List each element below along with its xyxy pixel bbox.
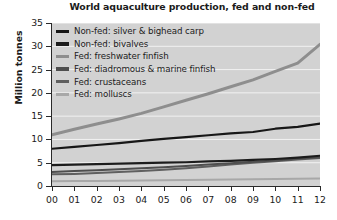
- x-tick-mark: [253, 187, 254, 191]
- legend-swatch-icon: [56, 55, 69, 58]
- legend-item-label: Non-fed: silver & bighead carp: [74, 26, 204, 36]
- y-tick-label: 5: [37, 157, 43, 168]
- y-tick-label: 15: [31, 110, 43, 121]
- x-tick-label: 00: [41, 194, 63, 205]
- x-tick-label: 03: [108, 194, 130, 205]
- series-line: [52, 179, 320, 182]
- legend-item-label: Fed: freshwater finfish: [74, 51, 169, 61]
- x-tick-label: 07: [197, 194, 219, 205]
- x-tick-label: 05: [153, 194, 175, 205]
- legend-item-label: Non-fed: bivalves: [74, 39, 148, 49]
- legend-item[interactable]: Fed: molluscs: [56, 88, 246, 101]
- y-tick-label: 35: [31, 17, 43, 28]
- x-tick-label: 08: [220, 194, 242, 205]
- x-tick-mark: [320, 187, 321, 191]
- legend-swatch-icon: [56, 42, 69, 45]
- legend-item[interactable]: Fed: freshwater finfish: [56, 50, 246, 63]
- x-tick-mark: [164, 187, 165, 191]
- x-tick-mark: [298, 187, 299, 191]
- y-tick-label: 30: [31, 40, 43, 51]
- x-axis-line: [51, 186, 321, 187]
- y-axis-title: Million tonnes: [13, 0, 24, 138]
- x-tick-mark: [119, 187, 120, 191]
- x-tick-mark: [141, 187, 142, 191]
- legend-item-label: Fed: crustaceans: [74, 77, 146, 87]
- x-tick-mark: [208, 187, 209, 191]
- x-tick-mark: [97, 187, 98, 191]
- chart-title: World aquaculture production, fed and no…: [52, 1, 332, 12]
- chart-legend: Non-fed: silver & bighead carpNon-fed: b…: [56, 25, 246, 101]
- x-tick-label: 06: [175, 194, 197, 205]
- x-tick-mark: [52, 187, 53, 191]
- legend-swatch-icon: [56, 93, 69, 96]
- legend-swatch-icon: [56, 80, 69, 83]
- legend-item[interactable]: Fed: diadromous & marine finfish: [56, 63, 246, 76]
- x-tick-label: 02: [86, 194, 108, 205]
- x-tick-label: 04: [130, 194, 152, 205]
- chart-container: World aquaculture production, fed and no…: [0, 0, 337, 220]
- x-tick-label: 11: [287, 194, 309, 205]
- legend-item-label: Fed: diadromous & marine finfish: [74, 64, 215, 74]
- y-tick-label: 0: [37, 180, 43, 191]
- x-tick-label: 01: [63, 194, 85, 205]
- x-tick-label: 12: [309, 194, 331, 205]
- legend-item[interactable]: Non-fed: silver & bighead carp: [56, 25, 246, 38]
- x-tick-mark: [186, 187, 187, 191]
- legend-item[interactable]: Fed: crustaceans: [56, 75, 246, 88]
- legend-item[interactable]: Non-fed: bivalves: [56, 38, 246, 51]
- x-tick-label: 10: [264, 194, 286, 205]
- x-tick-mark: [74, 187, 75, 191]
- x-tick-label: 09: [242, 194, 264, 205]
- legend-swatch-icon: [56, 67, 69, 70]
- y-tick-label: 25: [31, 64, 43, 75]
- x-tick-mark: [275, 187, 276, 191]
- legend-item-label: Fed: molluscs: [74, 89, 132, 99]
- series-line: [52, 124, 320, 149]
- y-tick-label: 20: [31, 87, 43, 98]
- x-tick-mark: [231, 187, 232, 191]
- y-tick-label: 10: [31, 133, 43, 144]
- legend-swatch-icon: [56, 30, 69, 33]
